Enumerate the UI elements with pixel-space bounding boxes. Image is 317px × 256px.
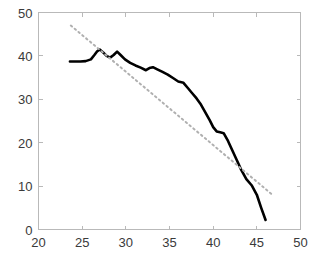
chart-canvas: 20253035404550 01020304050 [0, 0, 317, 256]
y-tick-label: 30 [18, 92, 32, 107]
x-tick-label: 20 [31, 235, 45, 250]
x-tick-label: 45 [250, 235, 264, 250]
figure-background [0, 0, 317, 256]
x-tick-label: 40 [206, 235, 220, 250]
y-tick-label: 10 [18, 179, 32, 194]
y-tick-label: 40 [18, 49, 32, 64]
x-tick-label: 25 [75, 235, 89, 250]
y-tick-label: 0 [25, 223, 32, 238]
y-tick-label: 20 [18, 136, 32, 151]
x-tick-label: 50 [293, 235, 307, 250]
x-tick-label: 30 [119, 235, 133, 250]
x-tick-label: 35 [162, 235, 176, 250]
y-tick-label: 50 [18, 6, 32, 21]
chart-figure: 20253035404550 01020304050 [0, 0, 317, 256]
